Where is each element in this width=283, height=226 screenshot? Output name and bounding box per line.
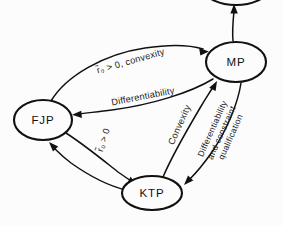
edge-label-ktp-to-mp-text: Convexity [166, 103, 193, 146]
optimality-relations-diagram: r̃₀ > 0, convexity Differentiability r̃₀… [0, 0, 283, 226]
node-label-mp: MP [226, 56, 245, 68]
arrowhead-ktp-to-mp [209, 81, 217, 91]
node-label-ktp: KTP [139, 187, 164, 199]
node-fjp[interactable]: FJP [14, 100, 72, 140]
node-label-fjp: FJP [31, 114, 54, 126]
edge-label-fjp-to-ktp-text: r̃₀ > 0 [94, 127, 112, 154]
edge-label-mp-to-ktp: Differentiability and constraint qualifi… [195, 99, 247, 167]
edge-label-ktp-to-mp: Convexity [166, 103, 193, 146]
node-mp[interactable]: MP [206, 42, 266, 82]
node-ellipse-top-cutoff[interactable] [206, 0, 266, 5]
arrowhead-mp-to-fjp [72, 111, 82, 118]
edge-fjp-to-mp[interactable] [51, 45, 203, 101]
edge-label-fjp-to-ktp: r̃₀ > 0 [94, 127, 112, 154]
edge-mp-to-top[interactable] [233, 11, 234, 41]
node-ktp[interactable]: KTP [122, 176, 182, 210]
